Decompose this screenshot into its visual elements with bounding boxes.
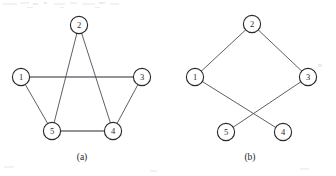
- node-graph-b-1[interactable]: 1: [186, 68, 203, 85]
- edge-graph-b-1-2: [201, 30, 245, 71]
- node-graph-a-3[interactable]: 3: [133, 68, 150, 85]
- captions-layer: (a)(b): [77, 152, 256, 163]
- edge-graph-b-2-3: [258, 30, 302, 71]
- node-graph-a-2[interactable]: 2: [70, 16, 87, 33]
- node-graph-b-3[interactable]: 3: [299, 68, 316, 85]
- edge-graph-b-3-5: [233, 82, 301, 127]
- graph-figure: 1234512345 (a)(b): [0, 0, 336, 176]
- node-graph-a-5[interactable]: 5: [43, 122, 60, 139]
- edge-graph-b-1-4: [202, 82, 275, 128]
- caption-graph-b: (b): [244, 152, 255, 163]
- node-graph-a-4[interactable]: 4: [104, 122, 121, 139]
- node-label-graph-b-5: 5: [224, 127, 228, 137]
- node-label-graph-a-2: 2: [77, 20, 81, 30]
- caption-graph-a: (a): [77, 152, 88, 163]
- node-label-graph-a-3: 3: [140, 72, 144, 82]
- node-graph-b-2[interactable]: 2: [243, 15, 260, 32]
- node-label-graph-a-5: 5: [50, 126, 54, 136]
- node-label-graph-b-2: 2: [250, 19, 254, 29]
- edges-layer: [25, 30, 301, 131]
- edge-graph-a-2-5: [54, 33, 77, 122]
- node-label-graph-b-1: 1: [193, 72, 197, 82]
- node-graph-a-1[interactable]: 1: [12, 68, 29, 85]
- node-label-graph-a-1: 1: [19, 72, 23, 82]
- nodes-layer: 1234512345: [12, 15, 316, 140]
- edge-graph-a-3-4: [117, 85, 138, 124]
- node-graph-b-5[interactable]: 5: [217, 123, 234, 140]
- figure-canvas: 1234512345 (a)(b): [0, 0, 336, 176]
- edge-graph-a-1-5: [25, 84, 47, 123]
- edge-graph-a-2-4: [82, 33, 111, 123]
- node-label-graph-b-3: 3: [306, 72, 310, 82]
- node-graph-b-4[interactable]: 4: [274, 123, 291, 140]
